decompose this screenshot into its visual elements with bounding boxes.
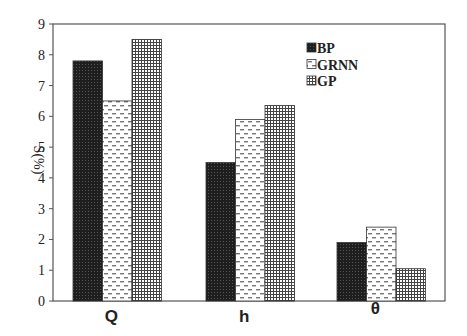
bar-gp-0: [132, 39, 162, 301]
x-category-label: Q: [105, 307, 118, 326]
y-tick-label: 7: [38, 79, 45, 94]
legend-swatch-bp: [307, 43, 316, 52]
bar-bp-2: [337, 243, 367, 301]
bar-grnn-0: [103, 101, 133, 301]
y-tick-label: 8: [38, 48, 45, 63]
legend-label-gp: GP: [317, 74, 337, 89]
x-category-label: h: [239, 307, 249, 326]
legend-swatch-grnn: [307, 60, 316, 69]
x-axis-labels: Qhθ: [105, 299, 380, 326]
bar-bp-1: [206, 163, 236, 302]
y-tick-label: 3: [38, 202, 45, 217]
y-tick-label: 9: [38, 17, 45, 32]
x-category-label: θ: [371, 299, 380, 318]
bar-bp-0: [73, 61, 103, 301]
bar-chart: 0123456789 Qhθ BPGRNNGP S(%): [0, 0, 467, 336]
legend-swatch-gp: [307, 76, 316, 85]
bar-gp-2: [396, 269, 426, 301]
y-tick-label: 2: [38, 232, 45, 247]
legend-label-bp: BP: [317, 41, 335, 56]
bars: [73, 39, 426, 301]
legend: BPGRNNGP: [307, 41, 358, 89]
y-tick-label: 6: [38, 109, 45, 124]
bar-gp-1: [265, 106, 295, 301]
y-tick-label: 1: [38, 263, 45, 278]
bar-grnn-2: [367, 227, 397, 301]
bar-grnn-1: [236, 119, 266, 301]
y-tick-label: 0: [38, 294, 45, 309]
y-axis-label: S(%): [30, 146, 46, 175]
legend-label-grnn: GRNN: [317, 58, 358, 73]
